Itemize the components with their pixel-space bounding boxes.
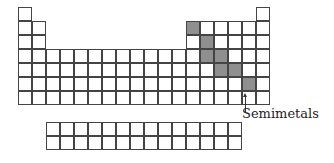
element-cell	[256, 49, 270, 63]
element-cell	[18, 7, 32, 21]
element-cell	[186, 35, 200, 49]
f-block-cell	[172, 136, 186, 150]
f-block-cell	[144, 136, 158, 150]
element-cell	[214, 35, 228, 49]
element-cell	[144, 49, 158, 63]
element-cell	[60, 77, 74, 91]
element-cell	[256, 21, 270, 35]
element-cell	[130, 91, 144, 105]
element-cell	[242, 49, 256, 63]
f-block-cell	[228, 122, 242, 136]
f-block-cell	[88, 122, 102, 136]
element-cell	[60, 91, 74, 105]
f-block-cell	[214, 136, 228, 150]
f-block-cell	[158, 136, 172, 150]
semimetal-cell	[228, 63, 242, 77]
element-cell	[130, 49, 144, 63]
element-cell	[158, 63, 172, 77]
element-cell	[18, 91, 32, 105]
element-cell	[102, 77, 116, 91]
element-cell	[18, 21, 32, 35]
element-cell	[186, 91, 200, 105]
element-cell	[116, 49, 130, 63]
element-cell	[60, 49, 74, 63]
element-cell	[32, 49, 46, 63]
element-cell	[228, 91, 242, 105]
f-block-cell	[116, 122, 130, 136]
semimetal-cell	[242, 77, 256, 91]
element-cell	[158, 91, 172, 105]
f-block-cell	[200, 136, 214, 150]
element-cell	[46, 91, 60, 105]
element-cell	[228, 77, 242, 91]
element-cell	[158, 77, 172, 91]
element-cell	[88, 49, 102, 63]
f-block-cell	[172, 122, 186, 136]
element-cell	[102, 63, 116, 77]
element-cell	[228, 49, 242, 63]
element-cell	[102, 91, 116, 105]
element-cell	[242, 21, 256, 35]
element-cell	[200, 77, 214, 91]
element-cell	[256, 63, 270, 77]
f-block-cell	[102, 136, 116, 150]
f-block-cell	[46, 122, 60, 136]
f-block-cell	[46, 136, 60, 150]
element-cell	[144, 91, 158, 105]
element-cell	[88, 77, 102, 91]
f-block-cell	[186, 136, 200, 150]
element-cell	[88, 63, 102, 77]
element-cell	[186, 77, 200, 91]
element-cell	[200, 63, 214, 77]
element-cell	[32, 63, 46, 77]
element-cell	[158, 49, 172, 63]
element-cell	[228, 35, 242, 49]
element-cell	[74, 77, 88, 91]
element-cell	[172, 91, 186, 105]
element-cell	[186, 63, 200, 77]
element-cell	[130, 77, 144, 91]
f-block-cell	[130, 136, 144, 150]
element-cell	[214, 77, 228, 91]
f-block-cell	[130, 122, 144, 136]
element-cell	[144, 63, 158, 77]
element-cell	[46, 49, 60, 63]
f-block-cell	[60, 136, 74, 150]
element-cell	[46, 77, 60, 91]
element-cell	[200, 21, 214, 35]
element-cell	[88, 91, 102, 105]
element-cell	[242, 35, 256, 49]
element-cell	[228, 21, 242, 35]
element-cell	[18, 63, 32, 77]
element-cell	[18, 77, 32, 91]
element-cell	[256, 35, 270, 49]
semimetal-cell	[214, 49, 228, 63]
element-cell	[256, 77, 270, 91]
f-block-cell	[214, 122, 228, 136]
element-cell	[74, 91, 88, 105]
semimetal-cell	[200, 49, 214, 63]
f-block-cell	[158, 122, 172, 136]
element-cell	[74, 49, 88, 63]
f-block-cell	[200, 122, 214, 136]
f-block-cell	[74, 122, 88, 136]
element-cell	[214, 91, 228, 105]
element-cell	[200, 91, 214, 105]
f-block-cell	[74, 136, 88, 150]
f-block-cell	[60, 122, 74, 136]
element-cell	[172, 63, 186, 77]
element-cell	[74, 63, 88, 77]
f-block-cell	[116, 136, 130, 150]
element-cell	[116, 91, 130, 105]
element-cell	[214, 21, 228, 35]
element-cell	[32, 91, 46, 105]
f-block-cell	[102, 122, 116, 136]
element-cell	[256, 7, 270, 21]
element-cell	[242, 63, 256, 77]
element-cell	[60, 63, 74, 77]
semimetal-cell	[214, 63, 228, 77]
f-block-cell	[88, 136, 102, 150]
semimetals-label: Semimetals	[242, 106, 319, 121]
semimetal-cell	[200, 35, 214, 49]
element-cell	[32, 35, 46, 49]
